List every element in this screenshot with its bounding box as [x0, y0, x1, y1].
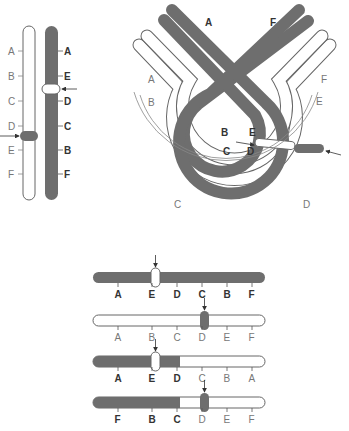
gene-label: A [115, 332, 122, 343]
gene-label: C [174, 199, 181, 210]
gene-label: D [8, 121, 15, 132]
gene-label: F [321, 74, 327, 85]
arrow-icon [236, 142, 254, 145]
chromosome-bar-1: AEDCBF [93, 255, 265, 300]
gene-label: E [149, 289, 156, 300]
gene-label: F [249, 332, 255, 343]
gene-label: B [221, 127, 228, 138]
gene-label: C [174, 414, 181, 425]
inversion-loop [134, 10, 341, 194]
gene-label: A [205, 17, 212, 28]
gene-label: E [64, 71, 71, 82]
gene-label: F [64, 169, 70, 180]
arrow-icon [326, 151, 341, 155]
gene-label: D [247, 146, 254, 157]
gene-label: C [223, 146, 230, 157]
gene-label: C [174, 332, 181, 343]
gene-label: C [64, 121, 71, 132]
gene-label: A [8, 46, 15, 57]
chromosome-bar-4: FBCDEF [93, 380, 265, 425]
gene-label: B [64, 145, 71, 156]
gene-label: A [148, 74, 155, 85]
gene-label: A [249, 373, 256, 384]
light-centromere [20, 131, 38, 141]
gene-label: A [115, 289, 122, 300]
gene-label: B [224, 289, 231, 300]
gene-label: D [64, 96, 71, 107]
gene-label: B [148, 97, 155, 108]
gene-label: E [224, 414, 231, 425]
gene-label: F [115, 414, 121, 425]
gene-label: A [64, 46, 71, 57]
gene-label: F [249, 289, 255, 300]
gene-label: A [115, 373, 122, 384]
inversion-loop-diagram: ABCDEFAEDCBF ABCFEDAFBECD AEDCBFABCDEFAE… [0, 0, 349, 431]
gene-label: E [249, 127, 256, 138]
light-chromosome-vertical [23, 26, 35, 200]
gene-label: D [303, 199, 310, 210]
gene-label: C [8, 96, 15, 107]
chromosome-bar-2: ABCDEF [93, 298, 265, 343]
gene-label: E [8, 145, 15, 156]
gene-label: B [224, 373, 231, 384]
dark-centromere [42, 84, 60, 94]
vertical-homolog-pair: ABCDEFAEDCBF [0, 26, 77, 200]
gene-label: F [8, 169, 14, 180]
gene-label: F [270, 17, 276, 28]
gene-label: E [149, 373, 156, 384]
gene-label: B [8, 71, 15, 82]
gene-label: E [316, 96, 323, 107]
gene-label: B [149, 332, 156, 343]
gene-label: F [249, 414, 255, 425]
chromosome-bar-3: AEDCBA [93, 339, 265, 384]
gene-label: D [199, 332, 206, 343]
gene-label: D [174, 289, 181, 300]
gene-label: D [199, 414, 206, 425]
gene-label: D [174, 373, 181, 384]
gene-label: E [224, 332, 231, 343]
gene-label: B [149, 414, 156, 425]
diagram-canvas: ABCDEFAEDCBF ABCFEDAFBECD AEDCBFABCDEFAE… [0, 0, 349, 431]
dark-chromosome-vertical [45, 26, 58, 200]
